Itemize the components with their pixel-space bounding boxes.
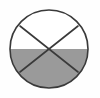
sectored-circle-diagram bbox=[0, 0, 100, 98]
figure-canvas bbox=[0, 0, 100, 98]
